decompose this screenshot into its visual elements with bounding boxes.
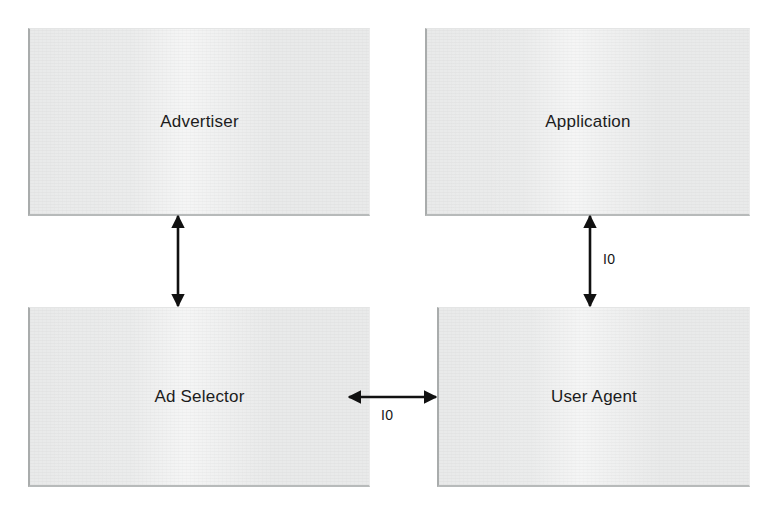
edge-label-ad-selector-user-agent: I0 xyxy=(381,408,393,422)
node-ad-selector-label: Ad Selector xyxy=(154,388,244,405)
node-application: Application xyxy=(425,28,750,216)
node-ad-selector: Ad Selector xyxy=(28,307,370,487)
node-advertiser: Advertiser xyxy=(28,28,370,216)
node-application-label: Application xyxy=(545,113,630,130)
node-user-agent: User Agent xyxy=(437,307,750,487)
node-user-agent-label: User Agent xyxy=(551,388,637,405)
node-advertiser-label: Advertiser xyxy=(160,113,239,130)
diagram-canvas: Advertiser Application Ad Selector User … xyxy=(0,0,770,515)
edge-label-application-user-agent: I0 xyxy=(603,252,615,266)
